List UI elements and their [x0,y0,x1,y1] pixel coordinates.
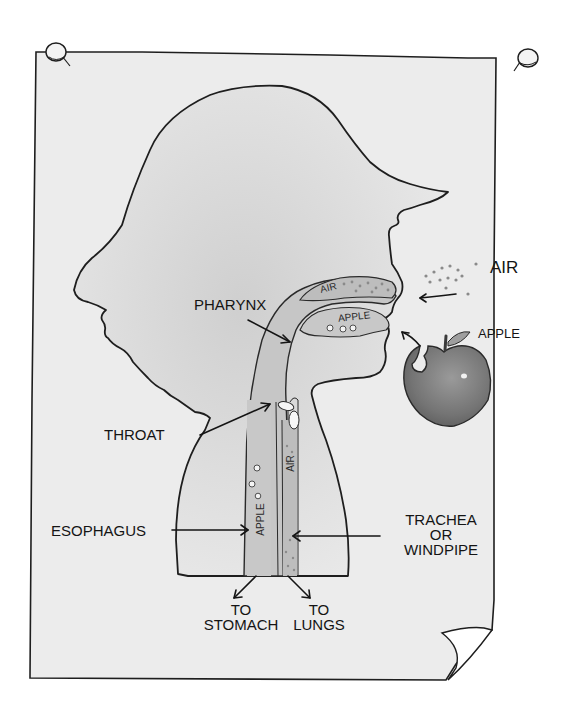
label-throat: THROAT [104,427,165,442]
label-apple-outside: APPLE [478,327,520,340]
label-to-lungs-line2: LUNGS [284,617,354,632]
label-to-stomach-line2: STOMACH [196,617,286,632]
label-esophagus: ESOPHAGUS [51,523,146,538]
esophagus-column [247,400,271,576]
label-to-stomach: TO STOMACH [196,602,286,632]
label-esophagus-apple: APPLE [255,503,266,535]
label-pharynx: PHARYNX [194,297,266,312]
label-to-stomach-line1: TO [196,602,286,617]
label-air-outside: AIR [490,259,518,276]
label-trachea-line2: OR [386,527,496,542]
pushpin-right-icon [514,49,538,71]
label-trachea: TRACHEA OR WINDPIPE [386,512,496,557]
label-trachea-line3: WINDPIPE [386,542,496,557]
label-trachea-air: AIR [285,455,296,472]
label-to-lungs-line1: TO [284,602,354,617]
label-to-lungs: TO LUNGS [284,602,354,632]
apple-pieces-mouth [327,325,356,332]
label-trachea-line1: TRACHEA [386,512,496,527]
